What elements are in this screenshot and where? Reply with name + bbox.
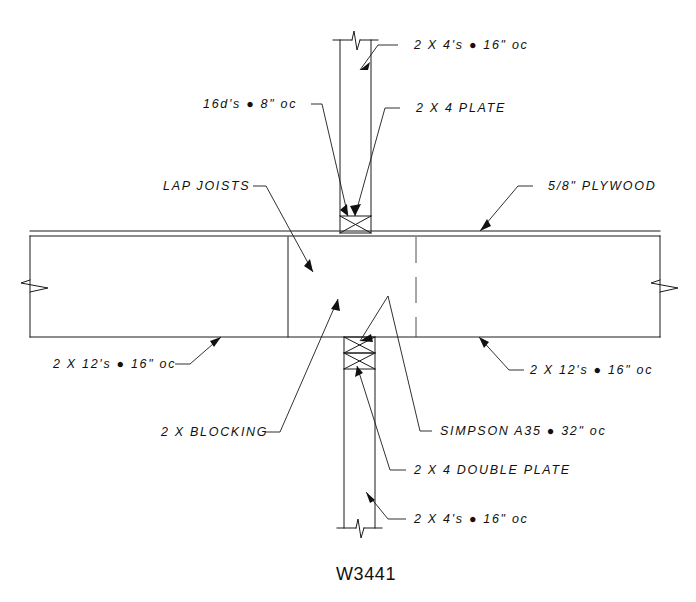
note-simpson: SIMPSON A35 ● 32" oc	[440, 424, 606, 438]
floor-joist-assembly	[30, 236, 660, 337]
note-joists-right: 2 X 12's ● 16" oc	[529, 363, 653, 377]
leader-top-plate	[350, 108, 400, 216]
top-plate-block	[340, 216, 371, 233]
break-symbol-top	[352, 31, 360, 50]
note-plywood: 5/8" PLYWOOD	[548, 179, 656, 193]
break-symbol-left	[21, 280, 48, 292]
lower-wall-studs	[337, 369, 382, 538]
note-lap-joists: LAP JOISTS	[163, 179, 250, 193]
note-nailing: 16d's ● 8" oc	[203, 97, 297, 111]
leader-nailing	[311, 104, 348, 216]
leader-bottom-stud	[366, 492, 406, 519]
framing-detail-drawing: 2 X 4's ● 16" oc 2 X 4 PLATE 16d's ● 8" …	[0, 0, 696, 602]
detail-canvas: 2 X 4's ● 16" oc 2 X 4 PLATE 16d's ● 8" …	[0, 0, 696, 602]
note-double-plate: 2 X 4 DOUBLE PLATE	[413, 463, 571, 477]
leader-joists-right	[479, 337, 524, 370]
leader-top-stud	[360, 45, 398, 70]
break-symbol-right	[651, 280, 678, 292]
leader-double-plate	[355, 366, 406, 470]
note-top-plate: 2 X 4 PLATE	[415, 101, 506, 115]
leader-plywood	[480, 186, 533, 231]
note-bottom-stud: 2 X 4's ● 16" oc	[413, 512, 529, 526]
drawing-title: W3441	[336, 564, 396, 584]
leader-joists-left	[175, 337, 221, 364]
note-joists-left: 2 X 12's ● 16" oc	[52, 357, 176, 371]
break-symbol-bottom	[356, 519, 364, 538]
upper-wall-studs	[333, 31, 378, 216]
leader-blocking	[265, 299, 340, 432]
leader-lap-joists	[253, 186, 313, 272]
note-blocking: 2 X BLOCKING	[160, 425, 268, 439]
note-top-stud: 2 X 4's ● 16" oc	[413, 38, 529, 52]
double-plate-block	[344, 337, 375, 369]
